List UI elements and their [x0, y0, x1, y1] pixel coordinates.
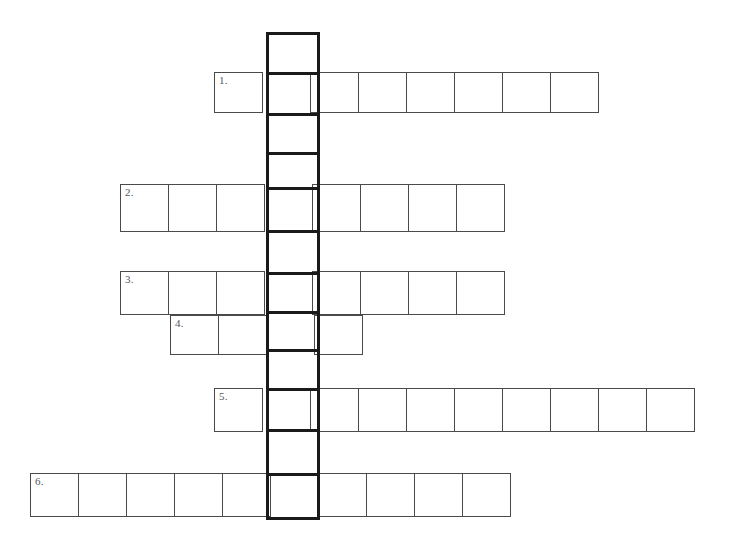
- answer-cell[interactable]: [550, 72, 599, 113]
- answer-cell[interactable]: [456, 184, 505, 232]
- answer-cell[interactable]: [168, 184, 217, 232]
- answer-cell[interactable]: [358, 72, 407, 113]
- key-column-cell[interactable]: [266, 187, 320, 233]
- answer-cell[interactable]: [218, 315, 267, 355]
- clue-number: 4.: [175, 318, 184, 329]
- key-column-cell[interactable]: [266, 32, 320, 75]
- key-column-cell[interactable]: [266, 113, 320, 155]
- key-column-cell[interactable]: [266, 388, 320, 432]
- answer-cell[interactable]: [456, 271, 505, 315]
- answer-cell[interactable]: [502, 72, 551, 113]
- key-column-cell[interactable]: [266, 349, 320, 391]
- clue-number: 2.: [125, 187, 134, 198]
- clue-number: 5.: [219, 391, 228, 402]
- answer-cell[interactable]: [462, 473, 511, 517]
- clue-number: 1.: [219, 75, 228, 86]
- answer-cell[interactable]: [216, 271, 265, 315]
- answer-cell[interactable]: [78, 473, 127, 517]
- answer-cell[interactable]: [314, 315, 363, 355]
- key-column-cell[interactable]: [266, 429, 320, 476]
- answer-cell[interactable]: 1.: [214, 72, 263, 113]
- answer-cell[interactable]: [550, 388, 599, 432]
- answer-cell[interactable]: [454, 388, 503, 432]
- answer-cell[interactable]: 6.: [30, 473, 79, 517]
- answer-cell[interactable]: [216, 184, 265, 232]
- answer-cell[interactable]: 3.: [120, 271, 169, 315]
- answer-cell[interactable]: [168, 271, 217, 315]
- answer-cell[interactable]: [174, 473, 223, 517]
- crossword-puzzle-canvas: 1.2.3.4.5.6.: [0, 0, 736, 539]
- answer-cell[interactable]: [360, 184, 409, 232]
- answer-cell[interactable]: 2.: [120, 184, 169, 232]
- key-column-cell[interactable]: [266, 72, 320, 116]
- answer-cell[interactable]: [414, 473, 463, 517]
- answer-cell[interactable]: [406, 388, 455, 432]
- key-column-cell[interactable]: [266, 272, 320, 314]
- vertical-key-column: [266, 32, 320, 520]
- answer-cell[interactable]: 4.: [170, 315, 219, 355]
- answer-cell[interactable]: 5.: [214, 388, 263, 432]
- answer-cell[interactable]: [408, 184, 457, 232]
- answer-cell[interactable]: [646, 388, 695, 432]
- answer-cell[interactable]: [358, 388, 407, 432]
- answer-cell[interactable]: [408, 271, 457, 315]
- key-column-cell[interactable]: [266, 311, 320, 352]
- answer-cell[interactable]: [502, 388, 551, 432]
- clue-number: 6.: [35, 476, 44, 487]
- key-column-cell[interactable]: [266, 152, 320, 190]
- answer-cell[interactable]: [598, 388, 647, 432]
- answer-cell[interactable]: [222, 473, 271, 517]
- key-column-cell[interactable]: [266, 473, 320, 520]
- answer-cell[interactable]: [454, 72, 503, 113]
- answer-cell[interactable]: [360, 271, 409, 315]
- answer-cell[interactable]: [318, 473, 367, 517]
- answer-cell[interactable]: [406, 72, 455, 113]
- answer-cell[interactable]: [126, 473, 175, 517]
- answer-cell[interactable]: [366, 473, 415, 517]
- key-column-cell[interactable]: [266, 230, 320, 275]
- clue-number: 3.: [125, 274, 134, 285]
